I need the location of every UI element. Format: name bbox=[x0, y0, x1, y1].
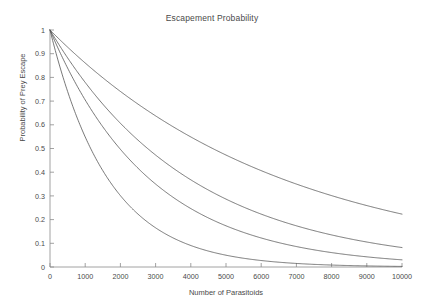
x-tick-label: 2000 bbox=[112, 272, 128, 281]
y-tick-label: 0.1 bbox=[35, 239, 45, 248]
y-tick-labels: 00.10.20.30.40.50.60.70.80.91 bbox=[35, 26, 45, 272]
x-tick-label: 9000 bbox=[359, 272, 375, 281]
x-axis-label: Number of Parasitoids bbox=[50, 288, 402, 297]
x-tick-marks bbox=[50, 263, 402, 267]
data-curve bbox=[50, 30, 402, 266]
y-tick-label: 0.2 bbox=[35, 215, 45, 224]
data-curve bbox=[50, 30, 402, 214]
y-tick-label: 0.4 bbox=[35, 168, 45, 177]
y-tick-label: 0 bbox=[41, 263, 45, 272]
data-curve bbox=[50, 30, 402, 260]
y-tick-label: 0.5 bbox=[35, 144, 45, 153]
x-tick-label: 8000 bbox=[324, 272, 340, 281]
data-curves bbox=[50, 30, 402, 266]
y-tick-label: 0.9 bbox=[35, 49, 45, 58]
y-tick-label: 0.3 bbox=[35, 192, 45, 201]
chart-figure: Escapement Probability 01000200030004000… bbox=[0, 0, 424, 307]
x-tick-labels: 0100020003000400050006000700080009000100… bbox=[48, 272, 412, 281]
x-tick-label: 4000 bbox=[183, 272, 199, 281]
x-tick-label: 7000 bbox=[288, 272, 304, 281]
plot-area: 0100020003000400050006000700080009000100… bbox=[0, 0, 424, 307]
x-tick-label: 1000 bbox=[77, 272, 93, 281]
x-tick-label: 3000 bbox=[148, 272, 164, 281]
y-axis-label: Probability of Prey Escape bbox=[18, 33, 27, 163]
y-tick-marks bbox=[50, 30, 54, 267]
y-tick-label: 0.6 bbox=[35, 120, 45, 129]
x-tick-label: 6000 bbox=[253, 272, 269, 281]
y-tick-label: 1 bbox=[41, 26, 45, 35]
y-tick-label: 0.7 bbox=[35, 97, 45, 106]
y-tick-label: 0.8 bbox=[35, 73, 45, 82]
x-tick-label: 10000 bbox=[392, 272, 412, 281]
data-curve bbox=[50, 30, 402, 248]
axis-lines bbox=[50, 30, 402, 267]
x-tick-label: 5000 bbox=[218, 272, 234, 281]
x-tick-label: 0 bbox=[48, 272, 52, 281]
